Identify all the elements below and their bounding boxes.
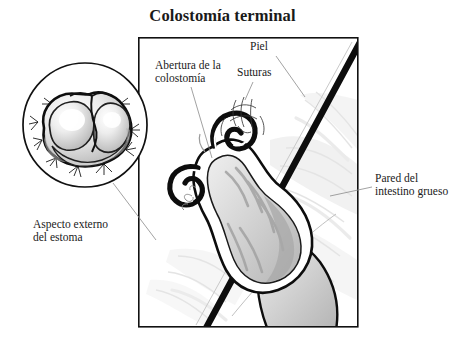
- label-sutures: Suturas: [237, 66, 272, 79]
- label-large-bowel-wall: Pared del intestino grueso: [375, 172, 448, 197]
- highlight-right: [103, 112, 121, 128]
- label-stoma-external-appearance: Aspecto externo del estoma: [33, 218, 108, 243]
- label-colostomy-opening: Abertura de la colostomía: [155, 59, 221, 84]
- highlight-core: [63, 112, 75, 122]
- figure-canvas: Colostomía terminal: [0, 0, 475, 349]
- label-skin: Piel: [250, 40, 268, 53]
